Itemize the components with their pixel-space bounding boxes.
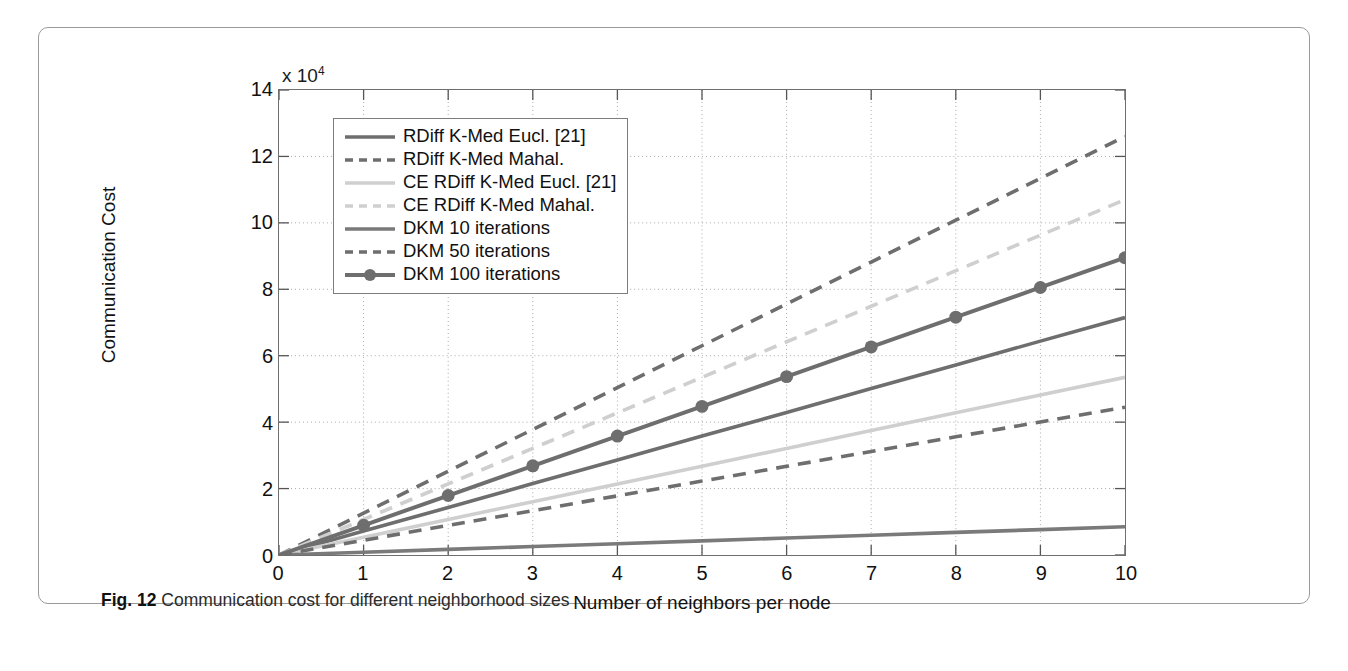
x-axis-tick-label: 9 xyxy=(1036,562,1047,585)
legend-line-sample xyxy=(343,220,397,238)
legend-label: CE RDiff K-Med Eucl. [21] xyxy=(403,173,617,192)
legend-item-0: RDiff K-Med Eucl. [21] xyxy=(343,125,617,148)
y-axis-multiplier-base: x 10 xyxy=(282,65,318,86)
series-marker xyxy=(865,340,878,353)
legend-label: DKM 10 iterations xyxy=(403,219,550,238)
y-axis-multiplier: x 104 xyxy=(282,64,325,87)
y-axis-multiplier-exponent: 4 xyxy=(318,64,325,78)
y-axis-tick-label: 6 xyxy=(233,344,273,367)
legend-line-sample xyxy=(343,128,397,146)
x-axis-tick-label: 1 xyxy=(357,562,368,585)
y-axis-tick-label: 14 xyxy=(233,78,273,101)
legend-item-2: CE RDiff K-Med Eucl. [21] xyxy=(343,171,617,194)
x-axis-tick-label: 2 xyxy=(442,562,453,585)
series-marker xyxy=(780,370,793,383)
figure-caption-text: Communication cost for different neighbo… xyxy=(161,590,569,610)
figure-caption: Fig. 12 Communication cost for different… xyxy=(101,590,570,611)
series-marker xyxy=(357,519,370,532)
legend-line-sample xyxy=(343,266,397,284)
series-marker xyxy=(1119,251,1125,264)
legend-label: RDiff K-Med Mahal. xyxy=(403,150,564,169)
y-axis-tick-label: 12 xyxy=(233,144,273,167)
legend-label: DKM 100 iterations xyxy=(403,265,560,284)
series-marker xyxy=(442,489,455,502)
series-marker xyxy=(611,430,624,443)
x-axis-tick-label: 10 xyxy=(1115,562,1137,585)
y-axis-tick-label: 4 xyxy=(233,411,273,434)
x-axis-tick-label: 6 xyxy=(781,562,792,585)
x-axis-tick-labels: 012345678910 xyxy=(278,562,1126,590)
series-marker xyxy=(696,400,709,413)
legend-line-sample xyxy=(343,197,397,215)
y-axis-tick-label: 0 xyxy=(233,545,273,568)
x-axis-tick-label: 8 xyxy=(951,562,962,585)
y-axis-tick-label: 2 xyxy=(233,478,273,501)
chart-legend: RDiff K-Med Eucl. [21]RDiff K-Med Mahal.… xyxy=(333,118,628,294)
legend-label: RDiff K-Med Eucl. [21] xyxy=(403,127,586,146)
y-axis-tick-label: 10 xyxy=(233,211,273,234)
legend-label: CE RDiff K-Med Mahal. xyxy=(403,196,595,215)
x-axis-tick-label: 7 xyxy=(866,562,877,585)
y-axis-tick-label: 8 xyxy=(233,278,273,301)
legend-line-sample xyxy=(343,174,397,192)
legend-item-1: RDiff K-Med Mahal. xyxy=(343,148,617,171)
y-axis-title: Communication Cost xyxy=(98,145,120,405)
legend-line-sample xyxy=(343,243,397,261)
legend-item-5: DKM 50 iterations xyxy=(343,240,617,263)
legend-line-sample xyxy=(343,151,397,169)
legend-item-3: CE RDiff K-Med Mahal. xyxy=(343,194,617,217)
plot-region: x 104 Communication Cost 02468101214 012… xyxy=(39,28,1311,558)
figure-card: x 104 Communication Cost 02468101214 012… xyxy=(38,27,1310,604)
legend-label: DKM 50 iterations xyxy=(403,242,550,261)
x-axis-tick-label: 0 xyxy=(272,562,283,585)
y-axis-tick-labels: 02468101214 xyxy=(229,89,273,556)
series-marker xyxy=(526,459,539,472)
x-axis-tick-label: 4 xyxy=(612,562,623,585)
series-marker xyxy=(1034,281,1047,294)
series-marker xyxy=(949,311,962,324)
figure-caption-label: Fig. 12 xyxy=(101,590,156,610)
x-axis-tick-label: 3 xyxy=(527,562,538,585)
x-axis-tick-label: 5 xyxy=(696,562,707,585)
legend-item-6: DKM 100 iterations xyxy=(343,263,617,286)
legend-item-4: DKM 10 iterations xyxy=(343,217,617,240)
